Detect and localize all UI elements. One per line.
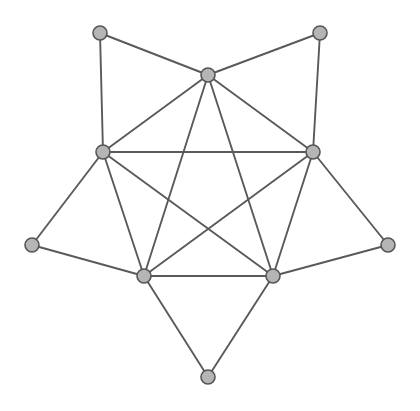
edge-layer xyxy=(32,33,388,377)
graph-edge xyxy=(208,33,320,75)
graph-node-outer-top-left[interactable] xyxy=(93,26,107,40)
graph-edge xyxy=(273,152,313,276)
graph-node-outer-bottom[interactable] xyxy=(201,370,215,384)
graph-edge xyxy=(100,33,103,152)
graph-node-outer-top-right[interactable] xyxy=(313,26,327,40)
graph-node-left-mid[interactable] xyxy=(96,145,110,159)
graph-edge xyxy=(100,33,208,75)
graph-edge xyxy=(273,245,388,276)
graph-edge xyxy=(103,152,273,276)
graph-node-top-center[interactable] xyxy=(201,68,215,82)
graph-node-outer-right[interactable] xyxy=(381,238,395,252)
graph-edge xyxy=(32,245,144,276)
graph-node-right-mid[interactable] xyxy=(306,145,320,159)
graph-figure xyxy=(0,0,420,411)
graph-edge xyxy=(103,152,144,276)
graph-edge xyxy=(103,75,208,152)
graph-edge xyxy=(208,75,313,152)
node-layer xyxy=(25,26,395,384)
graph-node-bottom-right[interactable] xyxy=(266,269,280,283)
graph-edge xyxy=(313,33,320,152)
graph-canvas xyxy=(0,0,420,411)
graph-edge xyxy=(144,152,313,276)
graph-edge xyxy=(144,75,208,276)
graph-edge xyxy=(144,276,208,377)
graph-edge xyxy=(208,75,273,276)
graph-node-outer-left[interactable] xyxy=(25,238,39,252)
graph-edge xyxy=(313,152,388,245)
graph-edge xyxy=(208,276,273,377)
graph-edge xyxy=(32,152,103,245)
graph-node-bottom-left[interactable] xyxy=(137,269,151,283)
